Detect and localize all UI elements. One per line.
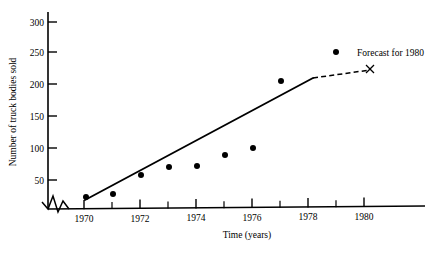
x-ticklabel-1980: 1980 <box>355 212 374 222</box>
chart-figure: 300 250 200 150 100 50 Number of truck b… <box>0 0 439 259</box>
data-points <box>83 49 339 200</box>
data-point <box>250 145 256 151</box>
x-axis: 1970 1972 1974 1976 1978 1980 Time (year… <box>48 198 425 241</box>
data-point <box>194 163 200 169</box>
x-axis-line <box>48 206 425 209</box>
trend-line <box>85 78 313 200</box>
x-ticklabel-1976: 1976 <box>243 213 262 223</box>
data-point <box>222 152 228 158</box>
y-axis-title: Number of truck bodies sold <box>8 57 18 166</box>
x-ticklabel-1978: 1978 <box>299 212 318 222</box>
y-ticklabel-250: 250 <box>30 48 45 58</box>
forecast-annotation: Forecast for 1980 <box>357 48 424 73</box>
y-axis-ticklabels: 300 250 200 150 100 50 <box>30 18 45 186</box>
data-point <box>83 194 89 200</box>
y-axis-ticks <box>48 22 57 180</box>
x-ticklabel-1970: 1970 <box>75 214 94 224</box>
data-point <box>333 49 339 55</box>
chart-svg: 300 250 200 150 100 50 Number of truck b… <box>0 0 439 259</box>
y-ticklabel-200: 200 <box>30 80 45 90</box>
x-marker-icon <box>366 65 374 73</box>
x-axis-ticklabels: 1970 1972 1974 1976 1978 1980 <box>75 212 374 224</box>
y-ticklabel-150: 150 <box>30 112 45 122</box>
data-point <box>110 191 116 197</box>
data-point <box>278 78 284 84</box>
forecast-dashed-line <box>313 70 370 78</box>
x-ticklabel-1972: 1972 <box>131 214 150 224</box>
y-axis: 300 250 200 150 100 50 Number of truck b… <box>8 12 57 209</box>
y-ticklabel-300: 300 <box>30 18 45 28</box>
data-point <box>166 164 172 170</box>
forecast-label: Forecast for 1980 <box>357 48 424 58</box>
y-ticklabel-50: 50 <box>35 176 45 186</box>
x-axis-title: Time (years) <box>223 230 271 241</box>
data-point <box>138 172 144 178</box>
x-ticklabel-1974: 1974 <box>187 213 206 223</box>
y-ticklabel-100: 100 <box>30 144 45 154</box>
